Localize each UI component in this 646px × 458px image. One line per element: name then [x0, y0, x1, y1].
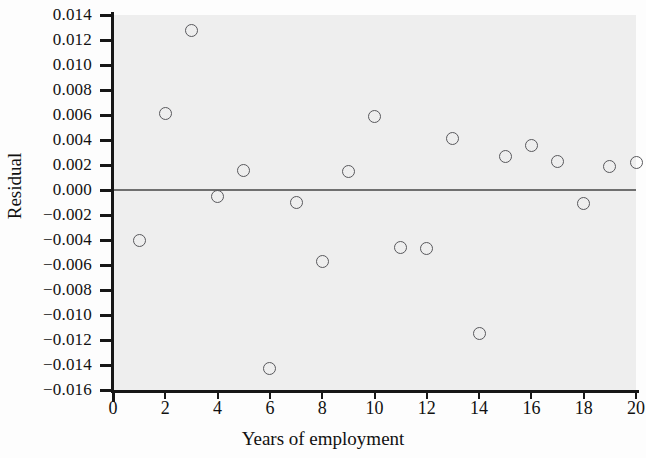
y-tick-label: 0.012 — [0, 31, 92, 48]
data-point — [551, 155, 564, 168]
y-tick-mark — [100, 114, 112, 117]
y-tick-mark — [100, 139, 112, 142]
data-point — [499, 150, 512, 163]
y-tick-mark — [100, 389, 112, 392]
y-tick-mark — [100, 39, 112, 42]
y-tick-mark — [100, 264, 112, 267]
x-tick-label: 20 — [616, 399, 646, 417]
y-tick-label: −0.014 — [0, 356, 92, 373]
data-point — [185, 24, 198, 37]
data-point — [316, 255, 329, 268]
x-tick-label: 2 — [145, 399, 185, 417]
y-tick-mark — [100, 189, 112, 192]
data-point — [211, 190, 224, 203]
y-axis-line — [111, 12, 114, 393]
data-point — [159, 107, 172, 120]
y-tick-mark — [100, 164, 112, 167]
y-tick-mark — [100, 289, 112, 292]
x-tick-label: 8 — [302, 399, 342, 417]
x-tick-label: 12 — [407, 399, 447, 417]
y-tick-mark — [100, 314, 112, 317]
x-tick-label: 10 — [355, 399, 395, 417]
y-tick-label: −0.012 — [0, 331, 92, 348]
data-point — [133, 234, 146, 247]
data-point — [237, 164, 250, 177]
data-point — [630, 156, 643, 169]
y-tick-label: −0.010 — [0, 306, 92, 323]
y-axis-title: Residual — [4, 86, 26, 286]
x-tick-label: 0 — [93, 399, 133, 417]
data-point — [342, 165, 355, 178]
residual-scatter-chart: 0.0140.0120.0100.0080.0060.0040.0020.000… — [0, 0, 646, 458]
data-point — [473, 327, 486, 340]
y-tick-mark — [100, 214, 112, 217]
data-point — [368, 110, 381, 123]
x-tick-label: 6 — [250, 399, 290, 417]
y-tick-mark — [100, 14, 112, 17]
y-tick-label: −0.016 — [0, 381, 92, 398]
x-tick-label: 16 — [511, 399, 551, 417]
data-point — [290, 196, 303, 209]
x-tick-label: 4 — [198, 399, 238, 417]
y-tick-mark — [100, 339, 112, 342]
y-tick-mark — [100, 239, 112, 242]
y-tick-mark — [100, 89, 112, 92]
y-tick-mark — [100, 364, 112, 367]
y-tick-label: 0.010 — [0, 56, 92, 73]
plot-area — [113, 15, 636, 390]
x-tick-label: 14 — [459, 399, 499, 417]
x-axis-title: Years of employment — [0, 428, 646, 450]
data-point — [525, 139, 538, 152]
y-tick-mark — [100, 64, 112, 67]
x-tick-label: 18 — [564, 399, 604, 417]
zero-reference-line — [113, 189, 636, 191]
y-tick-label: 0.014 — [0, 6, 92, 23]
